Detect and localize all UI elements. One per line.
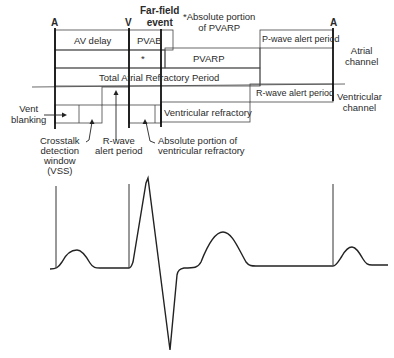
pvarp-label: PVARP — [193, 53, 225, 64]
ecg-waveform — [50, 178, 388, 350]
abs-vent-refractory-annotation: Absolute portion of ventricular refracto… — [158, 136, 245, 156]
r-wave-alert-box-left — [102, 87, 129, 105]
r-wave-alert-label: R-wave alert period — [256, 88, 334, 99]
marker-a-right: A — [330, 17, 337, 28]
atrial-channel-label: Atrial channel — [345, 45, 378, 67]
vent-blanking-label: Vent blanking — [11, 103, 46, 125]
marker-v: V — [125, 17, 132, 28]
av-delay-label: AV delay — [74, 35, 111, 46]
row2-left-box — [55, 50, 165, 68]
pvarp-note: *Absolute portion of PVARP — [183, 11, 255, 33]
tarp-label: Total Atrial Refractory Period — [99, 72, 219, 83]
crosstalk-label: Crosstalk detection window (VSS) — [40, 136, 80, 176]
marker-far-field: Far-field event — [140, 5, 179, 29]
r-wave-alert-annotation: R-wave alert period — [95, 136, 143, 156]
ventricular-channel-label: Ventricular channel — [337, 91, 382, 113]
asterisk-label: * — [141, 53, 145, 64]
channel-divider — [32, 84, 345, 87]
vent-refractory-label: Ventricular refractory — [164, 107, 252, 118]
p-wave-alert-label: P-wave alert period — [262, 34, 340, 45]
pvab-label: PVAB — [137, 35, 162, 46]
marker-a-left: A — [51, 17, 58, 28]
